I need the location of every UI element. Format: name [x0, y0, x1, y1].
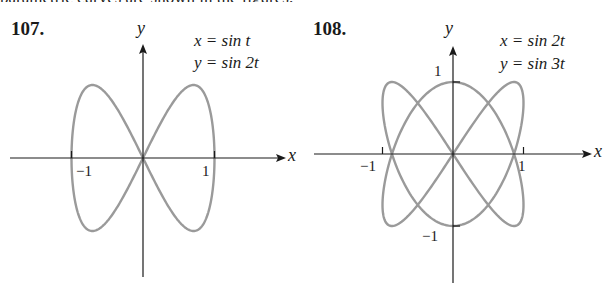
problem-108: 108. y x = sin 2t y = sin 3t x −1 1 1 −1: [300, 0, 610, 284]
problem-107: 107. y x = sin t y = sin 2t x −1 1: [0, 0, 300, 284]
plot-108: [300, 0, 610, 284]
plot-107: [0, 0, 300, 284]
